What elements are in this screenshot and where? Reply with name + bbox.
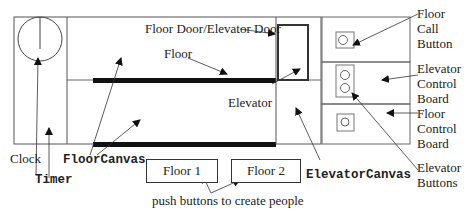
arrow-floor-call — [353, 14, 418, 45]
floor-control-board — [322, 104, 410, 144]
elevator-button-1 — [341, 84, 350, 93]
label-push-buttons: push buttons to create people — [152, 193, 304, 208]
arrow-floorcanvas-1 — [90, 58, 121, 155]
label-floor-control-board: Floor Control Board — [417, 106, 466, 151]
elevator-control-board — [322, 62, 410, 104]
label-timer: Timer — [35, 173, 73, 188]
arrow-elevator-control — [382, 75, 418, 80]
arrow-elevator-canvas — [296, 108, 320, 160]
label-floor-canvas: FloorCanvas — [63, 153, 146, 168]
arrow-floor — [188, 58, 227, 74]
label-floor-call-button: Floor Call Button — [417, 6, 466, 51]
floor-2-button[interactable]: Floor 2 — [231, 159, 301, 183]
floor-1-button[interactable]: Floor 1 — [146, 159, 218, 183]
arrow-floorcanvas-2 — [97, 120, 140, 155]
label-elevator-control-board: Elevator Control Board — [417, 61, 466, 106]
label-clock: Clock — [10, 151, 41, 166]
label-floor-door: Floor Door/Elevator Door — [145, 21, 281, 36]
elevator-car — [278, 25, 308, 80]
label-elevator-canvas: ElevatorCanvas — [306, 168, 411, 183]
elevator-button-2 — [341, 71, 350, 80]
floor-2-bar — [93, 78, 276, 83]
arrow-elevator-buttons — [352, 93, 418, 170]
floor-1-bar — [93, 142, 276, 147]
label-elevator: Elevator — [228, 95, 272, 110]
label-elevator-buttons: Elevator Buttons — [417, 160, 466, 190]
label-floor: Floor — [164, 46, 192, 61]
floor-control-button — [337, 114, 354, 131]
